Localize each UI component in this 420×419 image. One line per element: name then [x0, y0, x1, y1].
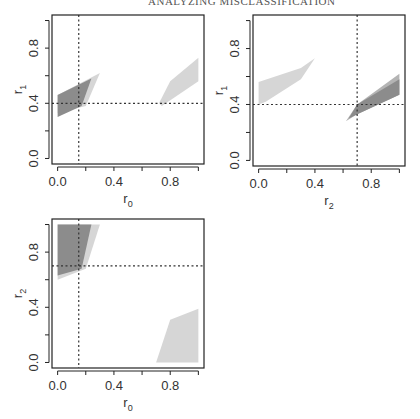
- y-axis-label: r1: [211, 86, 229, 95]
- x-axis: 0.00.40.8r2: [250, 169, 400, 211]
- y-axis: 0.00.40.8r1: [211, 21, 250, 170]
- y-tick-label: 0.8: [227, 40, 242, 58]
- y-axis: 0.00.40.8r1: [10, 21, 49, 168]
- x-tick-label: 0.4: [105, 174, 123, 189]
- x-tick-label: 0.0: [250, 176, 268, 191]
- region-light: [159, 58, 198, 106]
- y-tick-label: 0.4: [26, 94, 41, 112]
- x-tick-label: 0.4: [105, 378, 123, 393]
- y-axis-label: r2: [10, 289, 28, 298]
- y-tick-label: 0.8: [26, 243, 41, 261]
- x-tick-label: 0.8: [161, 378, 179, 393]
- x-tick-label: 0.0: [49, 378, 67, 393]
- y-tick-label: 0.8: [26, 39, 41, 57]
- x-axis: 0.00.40.8r0: [49, 167, 199, 209]
- region-light: [259, 58, 315, 104]
- panel-top-right: 0.00.40.8r20.00.40.8r1: [211, 15, 405, 211]
- x-tick-label: 0.8: [362, 176, 380, 191]
- y-tick-label: 0.4: [26, 298, 41, 316]
- y-tick-label: 0.0: [26, 353, 41, 371]
- y-axis: 0.00.40.8r2: [10, 225, 49, 372]
- x-axis-label: r2: [324, 193, 333, 211]
- panel-top-left: 0.00.40.8r00.00.40.8r1: [10, 15, 204, 209]
- y-tick-label: 0.0: [227, 151, 242, 169]
- y-tick-label: 0.0: [26, 149, 41, 167]
- x-tick-label: 0.8: [161, 174, 179, 189]
- panel-bottom-left: 0.00.40.8r00.00.40.8r2: [10, 219, 204, 413]
- y-axis-label: r1: [10, 85, 28, 94]
- x-axis: 0.00.40.8r0: [49, 371, 199, 413]
- x-axis-label: r0: [123, 191, 132, 209]
- figure: 0.00.40.8r00.00.40.8r1 0.00.40.8r20.00.4…: [0, 0, 420, 419]
- region-dark: [349, 79, 400, 118]
- y-tick-label: 0.4: [227, 95, 242, 113]
- region-light: [156, 309, 198, 363]
- shaded-regions: [259, 58, 400, 121]
- x-tick-label: 0.4: [306, 176, 324, 191]
- x-axis-label: r0: [123, 395, 132, 413]
- x-tick-label: 0.0: [49, 174, 67, 189]
